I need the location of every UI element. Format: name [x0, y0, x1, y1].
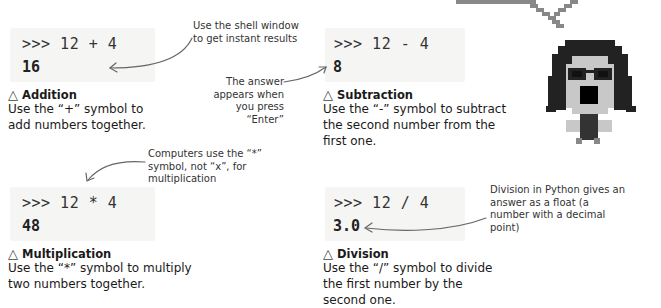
- pixel-character-icon: [0, 0, 661, 301]
